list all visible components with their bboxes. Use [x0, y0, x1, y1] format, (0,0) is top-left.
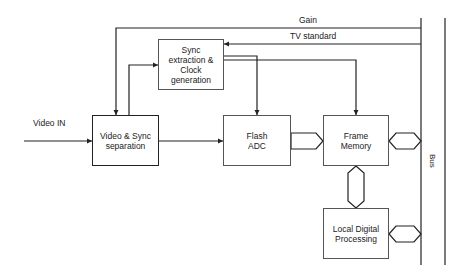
flash-adc-block: Flash ADC — [223, 115, 291, 166]
clock-to-memory-line — [224, 60, 356, 115]
local-processing-block: Local Digital Processing — [323, 208, 389, 259]
video-sync-separation-block: Video & Sync separation — [92, 115, 159, 166]
bus-label: Bus — [428, 154, 437, 168]
clock-to-adc-line — [224, 56, 257, 115]
tv-standard-label: TV standard — [290, 31, 336, 41]
video-sync-separation-label: Video & Sync separation — [97, 131, 154, 151]
sync-extraction-block: Sync extraction & Clock generation — [158, 39, 224, 90]
adc-to-memory-bus-arrow — [291, 133, 323, 149]
memory-processing-arrow — [348, 166, 364, 208]
frame-memory-block: Frame Memory — [323, 115, 389, 166]
video-in-label: Video IN — [33, 118, 65, 128]
local-processing-label: Local Digital Processing — [330, 224, 382, 244]
flash-adc-label: Flash ADC — [240, 131, 274, 151]
frame-memory-label: Frame Memory — [338, 131, 374, 151]
processing-bus-arrow — [389, 226, 421, 242]
gain-label: Gain — [299, 15, 317, 25]
memory-bus-arrow — [389, 133, 421, 149]
sync-feed-line — [129, 65, 158, 115]
sync-extraction-label: Sync extraction & Clock generation — [162, 45, 220, 85]
